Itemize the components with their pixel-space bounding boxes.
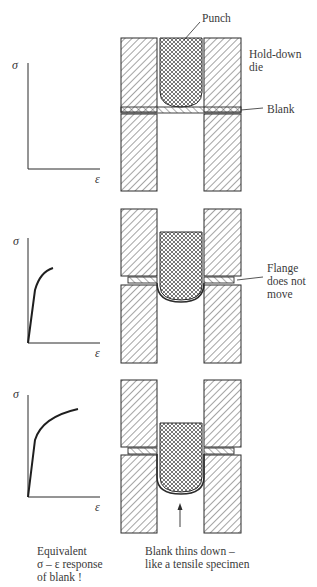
caption-right-line1: Blank thins down –	[145, 545, 235, 558]
caption-left-line1: Equivalent	[37, 545, 87, 558]
blank	[121, 107, 241, 113]
upper-left-hold-down-die	[121, 209, 157, 276]
graph-2	[28, 238, 100, 343]
hold-down-die-label-line2: die	[249, 61, 263, 74]
graph-1-x-label: ε	[95, 172, 100, 187]
stress-strain-curve	[28, 409, 78, 497]
stress-strain-curve	[28, 268, 53, 343]
lower-right-die	[204, 455, 241, 533]
flange-label-line3: move	[267, 288, 293, 301]
stage-1-initial	[121, 22, 263, 191]
punch	[160, 232, 202, 300]
graph-2-x-label: ε	[95, 346, 100, 361]
flange-label-line2: does not	[267, 275, 306, 288]
stage-3-deep-draw	[121, 380, 241, 533]
graph-1	[28, 63, 100, 169]
punch-label: Punch	[202, 12, 231, 25]
lower-left-die	[121, 455, 157, 533]
punch	[160, 423, 202, 492]
lower-right-die	[204, 114, 241, 191]
lower-right-die	[204, 285, 241, 363]
upward-arrow-icon	[178, 503, 183, 527]
flange-label-line1: Flange	[267, 262, 298, 275]
lower-left-die	[121, 114, 157, 191]
upper-right-hold-down-die	[204, 380, 241, 447]
blank-flange-left	[128, 277, 157, 283]
graph-3	[28, 395, 100, 497]
upper-right-hold-down-die	[204, 209, 241, 276]
graph-axes	[28, 238, 100, 343]
blank-flange-left	[128, 448, 157, 454]
graph-1-y-label: σ	[12, 58, 18, 73]
punch	[160, 38, 202, 107]
blank-flange-right	[204, 448, 234, 454]
graph-3-y-label: σ	[13, 387, 19, 402]
upper-right-hold-down-die	[204, 38, 241, 112]
stage-2-partial-draw	[121, 209, 263, 363]
blank-label: Blank	[267, 103, 294, 116]
lower-left-die	[121, 285, 157, 363]
caption-left-line3: of blank !	[37, 571, 82, 584]
hold-down-die-label-line1: Hold-down	[249, 48, 301, 61]
caption-left-line2: σ – ε response	[37, 558, 103, 571]
upper-left-hold-down-die	[121, 380, 157, 447]
punch-leader	[184, 22, 200, 40]
flange-leader	[237, 277, 263, 280]
graph-2-y-label: σ	[13, 234, 19, 249]
graph-axes	[28, 63, 100, 169]
caption-right-line2: like a tensile specimen	[145, 558, 249, 571]
graph-3-x-label: ε	[95, 500, 100, 515]
upper-left-hold-down-die	[121, 38, 157, 112]
blank-leader	[241, 108, 263, 110]
blank-flange-right	[204, 277, 234, 283]
graph-axes	[28, 395, 100, 497]
